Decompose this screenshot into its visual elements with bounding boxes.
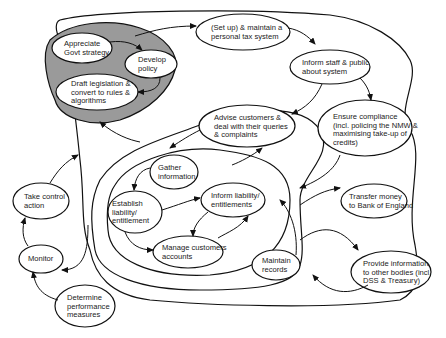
edge-ops-policy — [100, 122, 140, 142]
edge-maintain-inner — [280, 200, 296, 255]
edge-inform-advise — [292, 84, 322, 114]
edge-ops-provide — [300, 230, 358, 250]
edge-ops-transfer — [300, 188, 340, 205]
edge-establish-inform — [162, 198, 200, 210]
edge-inform-ensure — [360, 78, 371, 100]
label-inform-liab: Inform liability/ entitlements — [211, 192, 260, 209]
label-setup: (Set up) & maintain a personal tax syste… — [211, 24, 282, 41]
edge-inner-advise — [232, 148, 262, 165]
edge-monitor-take — [23, 218, 28, 246]
edge-take-system — [50, 155, 78, 183]
edge-establish-manage — [125, 232, 153, 250]
label-transfer: Transfer money to Bank of England — [349, 193, 413, 210]
edge-gather-establish — [134, 168, 150, 190]
label-determine: Determine performance measures — [67, 294, 110, 320]
edge-system-monitor — [62, 225, 88, 270]
label-provide: Provide information to other bodies (inc… — [363, 260, 431, 286]
label-monitor: Monitor — [28, 255, 53, 264]
label-gather: Gather information — [158, 164, 196, 181]
edge-determine-monitor — [33, 272, 58, 300]
edge-ensure-ops — [300, 155, 340, 188]
label-take-control: Take control action — [24, 193, 65, 210]
label-appreciate: Appreciate Govt strategy — [64, 40, 109, 57]
label-manage: Manage customers accounts — [162, 244, 227, 261]
label-maintain: Maintain records — [262, 257, 291, 274]
edge-advise-gather — [170, 130, 200, 148]
label-ensure: Ensure compliance (incl. policing the NM… — [333, 113, 418, 147]
edge-setup-inform — [288, 28, 315, 44]
edge-manage-inform — [218, 216, 248, 238]
edge-inform-manage — [193, 212, 208, 236]
label-develop: Develop policy — [138, 56, 166, 73]
label-advise: Advise customers & deal with their queri… — [214, 114, 288, 140]
label-draft: Draft legislation & convert to rules & a… — [71, 80, 131, 106]
label-inform-staff: Inform staff & public about system — [302, 59, 369, 76]
label-establish: Establish liability/ entitlement — [112, 200, 149, 226]
